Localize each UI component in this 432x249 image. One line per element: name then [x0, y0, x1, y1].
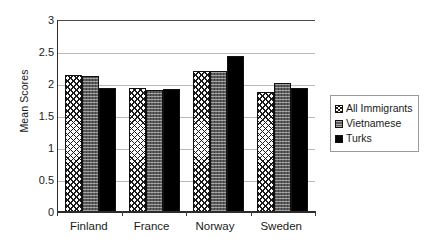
bar — [82, 76, 99, 212]
bar — [291, 88, 308, 212]
bar-group — [65, 21, 116, 212]
y-tick-label: 1.5 — [39, 110, 54, 122]
bar — [99, 88, 116, 212]
x-tick-mark — [57, 211, 58, 216]
bar — [210, 71, 227, 212]
bar — [129, 88, 146, 212]
bar — [163, 89, 180, 212]
x-tick-mark — [251, 211, 252, 216]
bar — [274, 83, 291, 212]
x-tick-mark — [186, 211, 187, 216]
bar — [146, 90, 163, 212]
bar — [257, 92, 274, 212]
bar-group — [257, 21, 308, 212]
legend-item: Turks — [335, 131, 413, 146]
x-tick-label: Finland — [70, 220, 108, 232]
y-axis-ticks: 00.511.522.53 — [28, 0, 54, 249]
y-tick-label: 2.5 — [39, 46, 54, 58]
x-axis-labels: FinlandFranceNorwaySweden — [57, 220, 315, 242]
y-tick-label: 0.5 — [39, 174, 54, 186]
x-tick-label: France — [134, 220, 170, 232]
legend-item-label: Turks — [346, 133, 372, 144]
bar-groups — [58, 21, 315, 212]
bar — [227, 56, 244, 212]
y-tick-label: 2 — [48, 78, 54, 90]
y-tick-label: 0 — [48, 206, 54, 218]
x-tick-mark — [122, 211, 123, 216]
plot-area — [57, 20, 315, 212]
solid-black-swatch — [335, 135, 343, 143]
bar-group — [193, 21, 244, 212]
y-tick-label: 3 — [48, 14, 54, 26]
crosshatch-swatch — [335, 105, 343, 113]
x-tick-mark — [315, 211, 316, 216]
x-tick-label: Norway — [195, 220, 234, 232]
bar-group — [129, 21, 180, 212]
legend-item-label: All Immigrants — [346, 103, 413, 114]
legend-item: All Immigrants — [335, 101, 413, 116]
gray-texture-swatch — [335, 120, 343, 128]
x-tick-label: Sweden — [260, 220, 302, 232]
legend-item-label: Vietnamese — [346, 118, 401, 129]
bar — [65, 75, 82, 212]
legend: All ImmigrantsVietnameseTurks — [330, 95, 419, 152]
legend-item: Vietnamese — [335, 116, 413, 131]
bar — [193, 71, 210, 212]
bar-chart: Mean Scores 00.511.522.53 FinlandFranceN… — [0, 0, 432, 249]
y-tick-label: 1 — [48, 142, 54, 154]
